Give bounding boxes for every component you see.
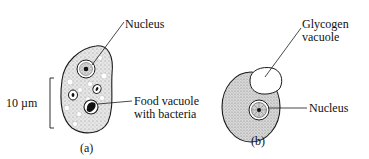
glycogen-label-line1: Glycogen: [302, 17, 349, 31]
glycogen-label-line2: vacuole: [302, 30, 339, 44]
panel-b: Glycogen vacuole Nucleus (b): [222, 17, 349, 148]
food-vacuole-label-line2: with bacteria: [134, 107, 197, 121]
scale-bar: [50, 78, 54, 128]
food-vacuole-label-line1: Food vacuole: [134, 94, 199, 108]
nucleus-a: [77, 60, 95, 78]
nucleus-b: [249, 100, 269, 120]
cell-a-body: [61, 46, 112, 133]
scale-bar-label: 10 µm: [6, 96, 38, 110]
panel-a: Nucleus Food vacuole with bacteria 10 µm…: [6, 17, 199, 155]
cell-diagram-figure: Nucleus Food vacuole with bacteria 10 µm…: [0, 0, 369, 159]
glycogen-vacuole: [250, 68, 282, 95]
panel-a-caption: (a): [80, 141, 93, 155]
glycogen-leader: [265, 28, 301, 77]
nucleus-a-label: Nucleus: [125, 17, 165, 31]
panel-b-caption: (b): [251, 134, 265, 148]
nucleus-b-label: Nucleus: [309, 101, 349, 115]
food-vacuole-small-1: [69, 90, 78, 100]
food-vacuole-with-bacteria: [84, 100, 98, 114]
